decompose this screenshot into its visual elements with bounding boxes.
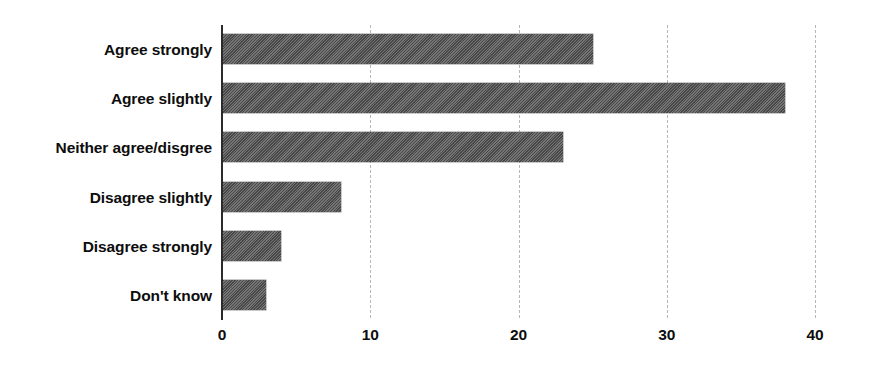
bar-dont-know <box>222 280 266 310</box>
y-tick-label: Agree strongly <box>0 25 212 74</box>
y-axis-tick-labels: Agree strongly Agree slightly Neither ag… <box>0 25 212 320</box>
bar-disagree-strongly <box>222 231 281 261</box>
x-tick-label: 20 <box>510 326 527 344</box>
bar-row <box>222 173 815 222</box>
x-tick-label: 30 <box>658 326 675 344</box>
bar-agree-strongly <box>222 34 593 64</box>
bar-agree-slightly <box>222 83 785 113</box>
x-axis-tick-labels: 0 10 20 30 40 <box>222 326 815 354</box>
gridline-40 <box>815 25 816 320</box>
bar-neither-agree-disgree <box>222 132 563 162</box>
y-tick-label: Don't know <box>0 271 212 320</box>
bar-disagree-slightly <box>222 182 341 212</box>
bar-row <box>222 25 815 74</box>
y-tick-label: Disagree strongly <box>0 222 212 271</box>
x-tick-label: 40 <box>806 326 823 344</box>
x-tick-label: 10 <box>362 326 379 344</box>
plot-area <box>222 25 815 320</box>
bar-row <box>222 222 815 271</box>
y-axis-line <box>221 25 223 320</box>
y-tick-label: Neither agree/disgree <box>0 123 212 172</box>
bar-chart: Agree strongly Agree slightly Neither ag… <box>0 0 869 367</box>
y-tick-label: Disagree slightly <box>0 173 212 222</box>
bar-row <box>222 74 815 123</box>
y-tick-label: Agree slightly <box>0 74 212 123</box>
bar-row <box>222 123 815 172</box>
x-tick-label: 0 <box>218 326 227 344</box>
bar-row <box>222 271 815 320</box>
